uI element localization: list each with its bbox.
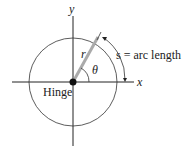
x-axis-label: x bbox=[137, 76, 142, 88]
rod-end-tick bbox=[97, 32, 101, 40]
arc-length-label: s = arc length bbox=[116, 49, 181, 61]
y-axis-label: y bbox=[69, 3, 74, 15]
hinge-label: Hinge bbox=[43, 86, 72, 98]
arc-arrowhead-bottom bbox=[123, 78, 127, 82]
radius-label: r bbox=[81, 48, 86, 60]
theta-arc bbox=[81, 68, 89, 82]
arc-arrowhead-top bbox=[102, 37, 107, 41]
theta-label: θ bbox=[92, 64, 98, 76]
rotation-diagram bbox=[0, 0, 189, 158]
